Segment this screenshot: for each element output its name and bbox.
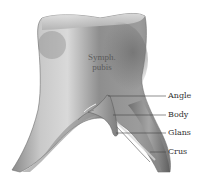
label-angle: Angle [168,92,191,100]
bone-shadow-left [38,31,66,59]
label-glans: Glans [168,129,191,137]
label-body: Body [168,111,188,119]
label-crus: Crus [168,148,187,156]
pubic-bone [12,13,171,172]
symphysis-label-line2: pubis [84,62,120,72]
symphysis-label-line1: Symph. [84,52,120,62]
anatomical-figure: Symph. pubis Angle Body Glans Crus [0,0,200,185]
symphysis-pubis-label: Symph. pubis [84,52,120,72]
